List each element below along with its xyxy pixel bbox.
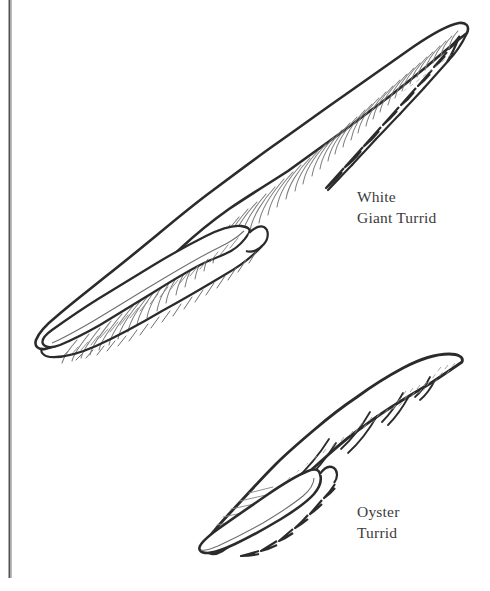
label-white-giant-turrid: White Giant Turrid xyxy=(357,186,436,228)
shell-oyster-turrid xyxy=(199,354,462,556)
shell-illustration-canvas xyxy=(0,0,490,591)
left-vertical-rule xyxy=(10,0,12,578)
illustration-plate: White Giant Turrid Oyster Turrid xyxy=(0,0,490,591)
oyster-turrid-anal-sinus-notch xyxy=(320,467,337,483)
label-oyster-turrid: Oyster Turrid xyxy=(357,501,400,543)
